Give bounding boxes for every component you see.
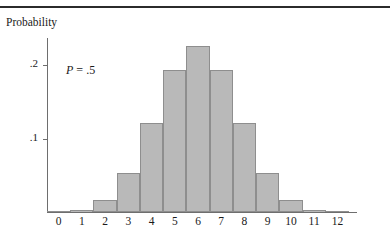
x-tick-label: 2 — [94, 215, 116, 227]
x-tick-label: 7 — [210, 215, 232, 227]
bar — [326, 211, 349, 213]
x-tick-label: 6 — [187, 215, 209, 227]
x-tick-label: 4 — [141, 215, 163, 227]
bar — [117, 173, 140, 212]
x-tick-label: 1 — [71, 215, 93, 227]
x-tick-label: 5 — [164, 215, 186, 227]
x-tick-label: 0 — [48, 215, 70, 227]
bar — [210, 70, 233, 212]
x-tick-label: 12 — [326, 215, 348, 227]
bar — [163, 70, 186, 212]
bar — [256, 173, 279, 212]
bar — [233, 123, 256, 212]
bar — [93, 200, 116, 212]
x-tick-label: 9 — [257, 215, 279, 227]
x-tick-label: 10 — [280, 215, 302, 227]
plot-area: Probability P = .5 .1.2 0123456789101112 — [0, 0, 390, 245]
x-tick-label-group: 0123456789101112 — [0, 215, 390, 239]
bar-group — [0, 0, 390, 245]
x-tick-label: 3 — [117, 215, 139, 227]
figure-container: Probability P = .5 .1.2 0123456789101112 — [0, 0, 390, 245]
bar — [279, 200, 302, 212]
bar — [47, 211, 70, 213]
bar — [140, 123, 163, 212]
bar — [186, 46, 209, 212]
bar — [70, 210, 93, 212]
x-tick-label: 8 — [233, 215, 255, 227]
bar — [303, 210, 326, 212]
x-tick-label: 11 — [303, 215, 325, 227]
